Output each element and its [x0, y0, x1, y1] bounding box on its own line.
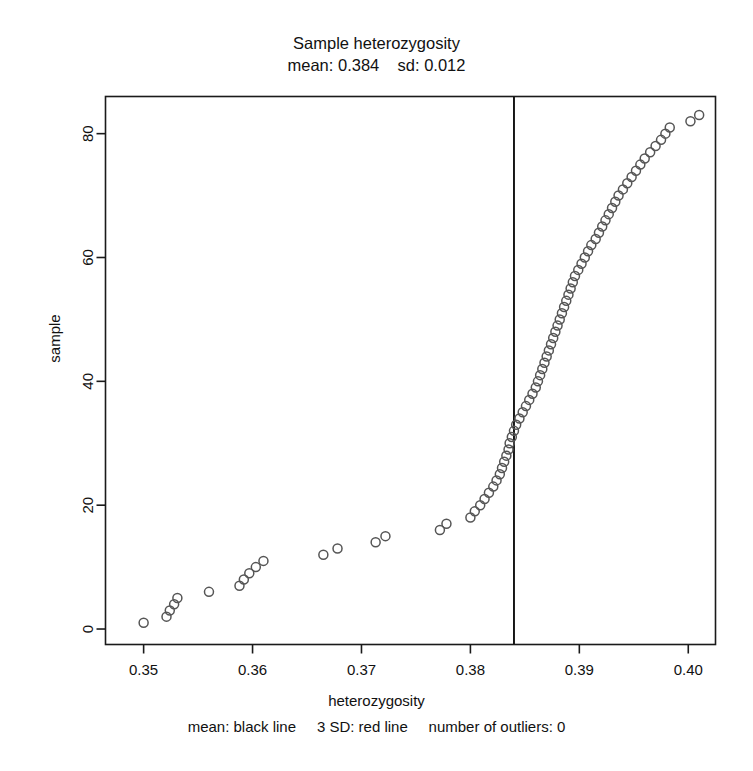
data-point	[657, 135, 666, 144]
data-point	[498, 464, 507, 473]
y-axis-tick-label: 40	[79, 373, 96, 390]
data-point	[538, 364, 547, 373]
chart-caption: mean: black line 3 SD: red line number o…	[0, 718, 753, 735]
data-point	[661, 129, 670, 138]
y-axis-label: sample	[46, 279, 63, 399]
data-point	[480, 494, 489, 503]
data-point	[466, 513, 475, 522]
x-axis-tick-label: 0.36	[238, 661, 267, 678]
data-point	[484, 488, 493, 497]
data-point	[549, 333, 558, 342]
data-point	[442, 519, 451, 528]
data-point	[623, 179, 632, 188]
data-point	[547, 340, 556, 349]
data-point	[686, 117, 695, 126]
data-point	[557, 309, 566, 318]
data-point	[235, 581, 244, 590]
data-point	[695, 111, 704, 120]
axis-layer: 0.350.360.370.380.390.40020406080	[79, 125, 703, 677]
data-point	[139, 618, 148, 627]
scatter-plot-canvas: 0.350.360.370.380.390.40020406080	[0, 0, 753, 771]
data-point	[636, 160, 645, 169]
data-point	[564, 290, 573, 299]
x-axis-tick-label: 0.35	[129, 661, 158, 678]
figure-root: Sample heterozygosity mean: 0.384 sd: 0.…	[0, 0, 753, 771]
data-point	[319, 550, 328, 559]
data-point	[566, 284, 575, 293]
plot-frame	[106, 97, 716, 645]
data-point	[553, 321, 562, 330]
x-axis-label: heterozygosity	[0, 692, 753, 709]
data-point	[204, 587, 213, 596]
data-point	[251, 563, 260, 572]
y-axis-tick-label: 0	[79, 625, 96, 633]
data-point	[665, 123, 674, 132]
data-point	[381, 532, 390, 541]
data-point	[618, 185, 627, 194]
data-point	[544, 346, 553, 355]
x-axis-tick-label: 0.37	[347, 661, 376, 678]
data-point	[502, 451, 511, 460]
data-point	[500, 457, 509, 466]
data-point	[542, 352, 551, 361]
data-point	[627, 173, 636, 182]
x-axis-tick-label: 0.38	[456, 661, 485, 678]
data-point	[259, 556, 268, 565]
data-point	[562, 296, 571, 305]
data-point	[555, 315, 564, 324]
y-axis-tick-label: 20	[79, 497, 96, 514]
data-point	[533, 377, 542, 386]
data-point	[507, 433, 516, 442]
x-axis-tick-label: 0.39	[565, 661, 594, 678]
data-point	[631, 166, 640, 175]
data-point	[560, 303, 569, 312]
x-axis-tick-label: 0.40	[674, 661, 703, 678]
data-point	[505, 439, 514, 448]
data-point	[551, 327, 560, 336]
data-point	[476, 501, 485, 510]
data-point	[568, 278, 577, 287]
y-axis-tick-label: 80	[79, 125, 96, 142]
data-point	[540, 358, 549, 367]
data-points-layer	[139, 111, 704, 628]
data-point	[371, 538, 380, 547]
data-point	[536, 371, 545, 380]
y-axis-tick-label: 60	[79, 249, 96, 266]
data-point	[333, 544, 342, 553]
